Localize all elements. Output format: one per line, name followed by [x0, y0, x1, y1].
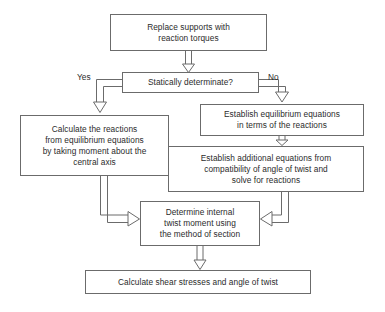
node-replace-supports-label: Replace supports with reaction torques	[147, 22, 230, 44]
node-calculate-shear: Calculate shear stresses and angle of tw…	[85, 270, 311, 294]
node-calculate-shear-label: Calculate shear stresses and angle of tw…	[118, 277, 278, 288]
connector-replace-to-decision	[183, 51, 195, 73]
connector-determine-to-shear	[194, 246, 206, 270]
node-statically-determinate-label: Statically determinate?	[148, 77, 233, 88]
node-calculate-reactions-label: Calculate the reactions from equilibrium…	[43, 124, 147, 168]
node-calculate-reactions: Calculate the reactions from equilibrium…	[20, 115, 169, 176]
node-determine-internal: Determine internal twist moment using th…	[140, 201, 260, 246]
connector-decision-no-to-equilibrium	[259, 80, 289, 103]
node-replace-supports: Replace supports with reaction torques	[110, 14, 267, 51]
node-statically-determinate: Statically determinate?	[122, 72, 259, 93]
edge-label-yes: Yes	[77, 72, 91, 82]
connector-calculate-to-determine	[101, 176, 140, 226]
connector-additional-to-determine	[261, 192, 289, 226]
node-determine-internal-label: Determine internal twist moment using th…	[160, 207, 240, 240]
node-establish-additional-label: Establish additional equations from comp…	[201, 153, 331, 186]
node-establish-equilibrium-label: Establish equilibrium equations in terms…	[224, 109, 340, 131]
connector-decision-yes-to-calculate	[94, 80, 123, 113]
node-establish-equilibrium: Establish equilibrium equations in terms…	[200, 104, 364, 136]
connector-equilibrium-to-additional	[276, 136, 288, 146]
node-establish-additional: Establish additional equations from comp…	[168, 146, 364, 192]
edge-label-no: No	[268, 72, 279, 82]
flowchart-canvas: Replace supports with reaction torques S…	[0, 0, 385, 312]
